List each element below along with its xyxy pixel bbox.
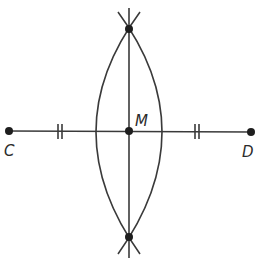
point-bottom-intersection: [125, 233, 133, 241]
left-compass-arc: [96, 12, 140, 254]
label-d: D: [242, 143, 254, 161]
perpendicular-bisector-diagram: C D M: [0, 0, 260, 266]
point-top-intersection: [125, 25, 133, 33]
label-m: M: [135, 112, 148, 130]
point-c: [5, 127, 13, 135]
right-compass-arc: [118, 12, 162, 254]
point-d: [247, 128, 255, 136]
point-m: [125, 127, 133, 135]
label-c: C: [4, 142, 15, 160]
